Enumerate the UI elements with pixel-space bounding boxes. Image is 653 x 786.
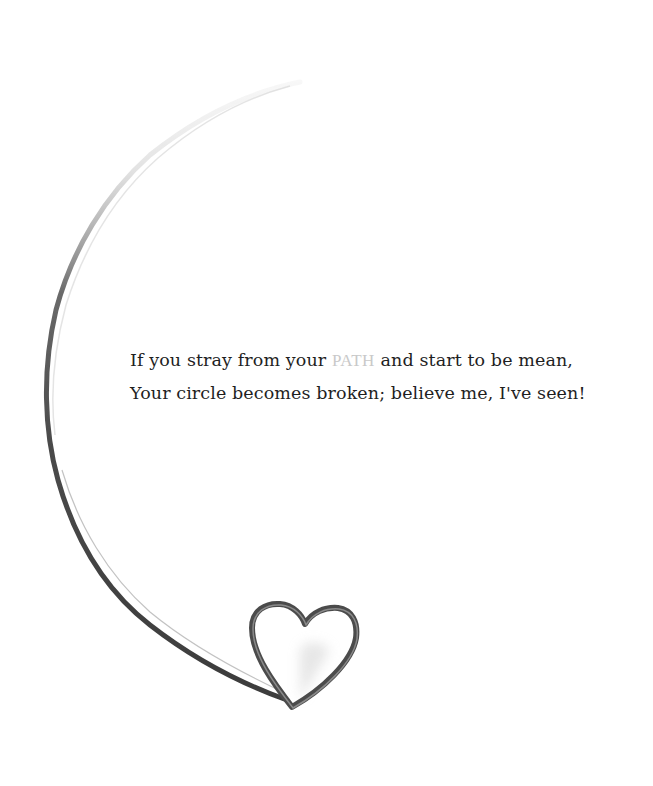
verse-line-1-end: and start to be mean, (375, 350, 573, 370)
storybook-page: If you stray from your PATH and start to… (0, 0, 653, 786)
verse-text: If you stray from your PATH and start to… (130, 344, 630, 410)
verse-line-2: Your circle becomes broken; believe me, … (130, 377, 630, 410)
highlight-word-path: PATH (332, 351, 375, 370)
verse-line-1: If you stray from your PATH and start to… (130, 344, 630, 377)
verse-line-1-start: If you stray from your (130, 350, 332, 370)
